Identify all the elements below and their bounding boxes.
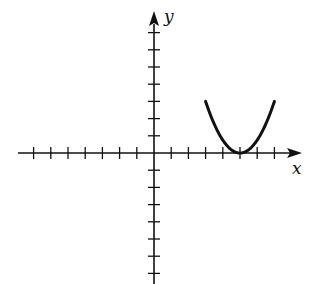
coordinate-plane: y x [0,0,310,284]
y-arrow-icon [149,11,159,26]
parabola-path [206,101,275,153]
parabola-curve [206,101,275,153]
x-axis-label: x [292,158,302,178]
y-axis-label: y [163,6,174,26]
axes [18,11,302,284]
